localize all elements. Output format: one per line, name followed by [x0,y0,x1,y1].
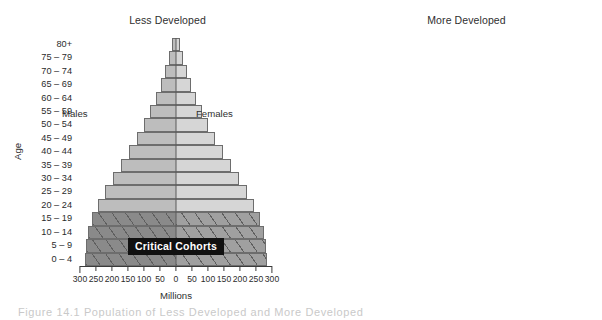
bar-female [176,159,231,172]
bar-female [176,78,192,91]
age-group-label: 0 – 4 [24,253,76,266]
bar-male [150,105,176,118]
panel-title-more-developed: More Developed [301,14,602,26]
figure-caption-text: Figure 14.1 Population of Less Developed… [0,306,602,318]
x-tick [239,266,240,271]
females-label-left: Females [196,108,233,119]
bar-female [176,118,209,131]
pyramid-row [80,199,272,212]
panel-title-less-developed: Less Developed [0,14,301,26]
y-tick-labels-left: 80+75 – 7970 – 7465 – 6960 – 6455 – 5950… [24,38,76,266]
bar-male [88,226,176,239]
bar-male [129,145,176,158]
bar-male [165,65,176,78]
pyramid-row [80,159,272,172]
figure-caption: Figure 14.1 Population of Less Developed… [0,306,602,320]
age-group-label: 25 – 29 [24,185,76,198]
age-group-label: 80+ [24,38,76,51]
age-group-label: 70 – 74 [24,65,76,78]
figure-population-pyramids: Less Developed Age 80+75 – 7970 – 7465 –… [0,0,602,320]
pyramid-row [80,51,272,64]
age-group-label: 45 – 49 [24,132,76,145]
age-group-label: 60 – 64 [24,92,76,105]
bar-female [176,199,254,212]
panel-more-developed: More Developed Age 80+75 – 7970 – 7465 –… [301,0,602,300]
pyramid-row [80,145,272,158]
x-tick [111,266,112,271]
x-tick [127,266,128,271]
pyramid-row [80,38,272,51]
age-group-label: 5 – 9 [24,239,76,252]
age-group-label: 30 – 34 [24,172,76,185]
x-tick-label: 50 [155,274,165,284]
age-group-label: 35 – 39 [24,159,76,172]
x-tick [271,266,272,273]
x-axis-title-left: Millions [80,290,272,301]
x-tick-label: 300 [265,274,279,284]
age-group-label: 65 – 69 [24,78,76,91]
bar-male [105,185,175,198]
pyramid-row [80,132,272,145]
bar-male [113,172,176,185]
x-tick-label: 50 [187,274,197,284]
bar-male [156,92,176,105]
panel-less-developed: Less Developed Age 80+75 – 7970 – 7465 –… [0,0,301,300]
x-tick-label: 250 [89,274,103,284]
bar-male [169,51,176,64]
y-axis-title-left: Age [12,143,23,160]
age-group-label: 10 – 14 [24,226,76,239]
x-tick [143,266,144,271]
bar-female [176,92,196,105]
age-group-label: 50 – 54 [24,118,76,131]
pyramid-row [80,118,272,131]
bar-female [176,172,239,185]
x-tick-label: 0 [174,274,179,284]
x-tick [79,266,80,273]
x-tick [223,266,224,271]
x-tick-label: 250 [249,274,263,284]
bar-male [98,199,175,212]
pyramid-row [80,65,272,78]
x-tick [207,266,208,271]
x-tick-label: 150 [121,274,135,284]
age-group-label: 40 – 44 [24,145,76,158]
age-group-label: 20 – 24 [24,199,76,212]
x-tick-label: 100 [201,274,215,284]
pyramid-row [80,78,272,91]
pyramid-row [80,92,272,105]
plot-area-less-developed: 30025020015010050050100150200250300 Mill… [80,38,272,266]
males-label-left: Males [62,108,88,119]
bar-male [161,78,176,91]
pyramid-row [80,185,272,198]
bar-female [176,212,260,225]
x-tick-label: 200 [105,274,119,284]
x-tick [159,266,160,271]
x-tick-labels-left: 30025020015010050050100150200250300 [66,274,286,286]
bar-female [176,145,223,158]
bar-female [176,51,184,64]
pyramid-row [80,105,272,118]
bar-male [144,118,176,131]
bar-female [176,185,247,198]
bar-female [176,38,180,51]
x-tick-label: 200 [233,274,247,284]
critical-cohorts-badge: Critical Cohorts [128,238,224,255]
x-tick [255,266,256,271]
x-tick [95,266,96,271]
age-group-label: 75 – 79 [24,51,76,64]
bar-rows-left [80,38,272,266]
pyramid-row [80,226,272,239]
bar-female [176,132,216,145]
x-tick-label: 300 [73,274,87,284]
x-tick [191,266,192,271]
pyramid-row [80,172,272,185]
bar-female [176,65,187,78]
bar-male [137,132,176,145]
age-group-label: 15 – 19 [24,212,76,225]
bar-male [92,212,176,225]
bar-male [121,159,176,172]
x-tick [175,266,176,271]
pyramid-row [80,212,272,225]
bar-female [176,226,264,239]
x-tick-label: 100 [137,274,151,284]
